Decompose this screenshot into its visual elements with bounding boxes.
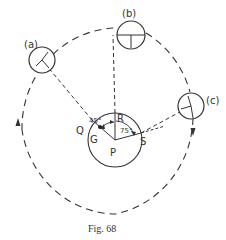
label-S: S bbox=[140, 136, 146, 147]
body-b bbox=[117, 21, 145, 49]
label-angle-75: 75° bbox=[120, 127, 132, 135]
label-R: R bbox=[117, 113, 124, 124]
arrow-up-icon bbox=[16, 118, 21, 126]
label-b: (b) bbox=[122, 8, 136, 19]
body-c bbox=[178, 93, 204, 119]
label-angle-45: 45° bbox=[89, 117, 101, 125]
label-a: (a) bbox=[24, 39, 38, 50]
body-a bbox=[29, 47, 55, 73]
figure-caption: Fig. 68 bbox=[88, 223, 116, 234]
diagram: (a) (b) (c) Q R S G P 45° 75° Fig. 68 bbox=[0, 0, 226, 240]
label-c: (c) bbox=[206, 95, 219, 106]
dash-S-extension bbox=[141, 126, 165, 133]
label-G: G bbox=[90, 134, 98, 145]
label-P: P bbox=[110, 147, 116, 158]
dash-to-b bbox=[113, 35, 115, 113]
label-Q: Q bbox=[76, 125, 84, 136]
point-G bbox=[98, 125, 102, 129]
angle-arrow-45b bbox=[110, 120, 114, 124]
